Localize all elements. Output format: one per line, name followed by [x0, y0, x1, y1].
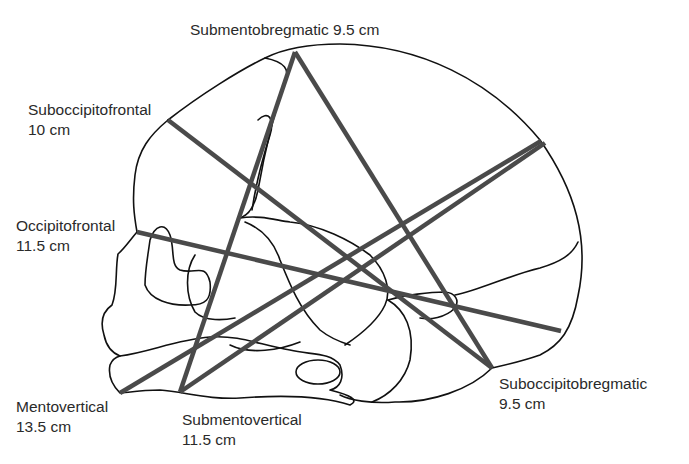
occipitofrontal-name: Occipitofrontal	[16, 216, 115, 236]
submentobregmatic-line	[180, 52, 295, 392]
mentovertical-name: Mentovertical	[16, 397, 108, 417]
label-mentovertical: Mentovertical 13.5 cm	[16, 397, 108, 437]
label-suboccipitobregmatic: Suboccipitobregmatic 9.5 cm	[499, 374, 647, 414]
suboccipitofrontal-line	[168, 120, 492, 368]
submentovertical-line	[180, 143, 545, 392]
occipitofrontal-value: 11.5 cm	[16, 236, 115, 256]
foramen-oval	[296, 360, 340, 384]
occipital-outline	[455, 242, 578, 295]
suboccipitofrontal-value: 10 cm	[28, 120, 151, 140]
sphenoid-outline	[240, 217, 388, 345]
label-suboccipitofrontal: Suboccipitofrontal 10 cm	[28, 100, 151, 140]
temporal-outline	[245, 222, 350, 345]
submentobregmatic-text: Submentobregmatic 9.5 cm	[190, 21, 380, 38]
jaw-outline	[109, 337, 353, 405]
submentovertical-name: Submentovertical	[182, 410, 302, 430]
suboccipitobregmatic-value: 9.5 cm	[499, 394, 647, 414]
orbit-outline	[145, 227, 210, 305]
maxilla-outline	[188, 255, 236, 320]
label-occipitofrontal: Occipitofrontal 11.5 cm	[16, 216, 115, 256]
suboccipitobregmatic-line	[295, 52, 492, 368]
label-submentobregmatic: Submentobregmatic 9.5 cm	[190, 20, 380, 40]
suboccipitobregmatic-name: Suboccipitobregmatic	[499, 374, 647, 394]
label-submentovertical: Submentovertical 11.5 cm	[182, 410, 302, 450]
mentovertical-value: 13.5 cm	[16, 417, 108, 437]
skull-vault-outline	[168, 44, 582, 403]
submentovertical-value: 11.5 cm	[182, 430, 302, 450]
suboccipitofrontal-name: Suboccipitofrontal	[28, 100, 151, 120]
